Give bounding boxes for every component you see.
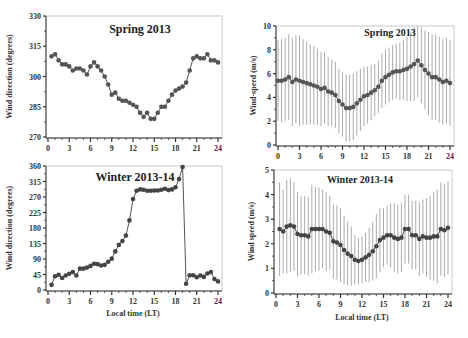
data-point [141, 115, 146, 120]
data-point [180, 84, 185, 89]
data-point [380, 78, 385, 83]
data-point [355, 101, 360, 106]
y-tick-label: 0 [267, 141, 271, 150]
data-point [145, 111, 150, 116]
y-axis-label: Wind direction (degrees) [5, 185, 14, 270]
data-point [292, 224, 297, 229]
data-point [376, 84, 381, 89]
data-point [187, 68, 192, 73]
data-point [342, 248, 347, 253]
data-point [322, 86, 327, 91]
data-line [52, 54, 219, 119]
chart-title: Winter 2013-14 [95, 170, 174, 184]
x-tick-label: 6 [319, 152, 323, 161]
data-point [406, 227, 411, 232]
y-axis-label: Wind speed (m/s) [247, 201, 256, 261]
x-tick-label: 18 [172, 297, 180, 306]
x-tick-label: 3 [298, 152, 302, 161]
x-tick-label: 21 [193, 144, 201, 153]
x-tick-label: 12 [129, 144, 137, 153]
data-point [435, 234, 440, 239]
y-tick-label: 315 [29, 42, 41, 51]
y-tick-label: 2 [267, 117, 271, 126]
x-tick-label: 12 [129, 297, 137, 306]
x-tick-label: 21 [423, 300, 431, 309]
data-point [106, 82, 111, 87]
x-tick-label: 3 [67, 297, 71, 306]
y-tick-label: 300 [29, 73, 41, 82]
data-point [399, 235, 404, 240]
data-point [70, 270, 75, 275]
data-point [99, 68, 104, 73]
data-point [163, 104, 168, 109]
data-point [338, 243, 343, 248]
y-tick-label: 0 [265, 289, 269, 298]
data-point [102, 263, 107, 268]
y-tick-label: 2 [265, 240, 269, 249]
data-point [173, 185, 178, 190]
data-point [358, 97, 363, 102]
x-tick-label: 18 [172, 144, 180, 153]
x-tick-label: 3 [67, 144, 71, 153]
data-point [117, 243, 122, 248]
chart-title: Spring 2013 [109, 22, 171, 36]
data-line [52, 167, 219, 285]
y-tick-label: 8 [267, 46, 271, 55]
x-tick-label: 15 [150, 297, 158, 306]
y-tick-label: 315 [29, 178, 41, 187]
data-point [415, 58, 420, 63]
y-tick-label: 270 [29, 133, 41, 142]
data-point [413, 233, 418, 238]
data-point [209, 270, 214, 275]
x-tick-label: 9 [339, 300, 343, 309]
data-point [337, 99, 342, 104]
data-point [205, 52, 210, 57]
data-point [53, 52, 58, 57]
y-tick-label: 1 [265, 264, 269, 273]
y-tick-label: 5 [265, 166, 269, 175]
data-point [109, 256, 114, 261]
y-tick-label: 10 [263, 22, 271, 31]
chart-winter-wind-direction: 0459013518022527031536003691215182124Win… [5, 162, 222, 318]
x-tick-label: 6 [89, 144, 93, 153]
x-tick-label: 0 [276, 152, 280, 161]
chart-spring-wind-direction: 27028530031533003691215182124Wind direct… [5, 12, 222, 153]
data-point [124, 233, 129, 238]
data-point [426, 71, 431, 76]
data-point [131, 197, 136, 202]
y-tick-label: 6 [267, 70, 271, 79]
data-point [306, 234, 311, 239]
data-point [120, 239, 125, 244]
y-tick-label: 135 [29, 240, 41, 249]
y-tick-label: 225 [29, 209, 41, 218]
x-tick-label: 0 [46, 297, 50, 306]
chart-title: Spring 2013 [364, 27, 415, 38]
data-point [134, 104, 139, 109]
x-tick-label: 21 [425, 152, 433, 161]
x-tick-label: 21 [193, 297, 201, 306]
data-point [349, 254, 354, 259]
data-point [127, 218, 132, 223]
data-point [423, 68, 428, 73]
data-point [113, 249, 118, 254]
data-point [88, 64, 93, 69]
data-point [327, 230, 332, 235]
data-point [102, 74, 107, 79]
y-tick-label: 285 [29, 103, 41, 112]
data-point [138, 111, 143, 116]
data-point [367, 253, 372, 258]
data-point [152, 117, 157, 122]
data-point [281, 229, 286, 234]
data-point [184, 80, 189, 85]
data-point [170, 92, 175, 97]
data-point [216, 60, 221, 65]
data-point [113, 90, 118, 95]
data-point [56, 58, 61, 63]
y-axis-label: Wind direction (degrees) [5, 34, 14, 119]
y-tick-label: 0 [37, 286, 41, 295]
data-point [216, 279, 221, 284]
x-tick-label: 18 [403, 152, 411, 161]
x-tick-label: 24 [214, 297, 222, 306]
data-point [370, 249, 375, 254]
x-tick-label: 3 [296, 300, 300, 309]
